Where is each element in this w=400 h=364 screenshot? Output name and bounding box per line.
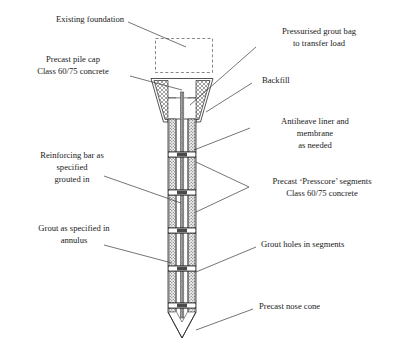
- label-grout-holes-line-0: Grout holes in segments: [261, 239, 345, 249]
- label-backfill-line-0: Backfill: [262, 75, 290, 85]
- label-presscore-line-1: Class 60/75 concrete: [286, 188, 358, 198]
- pile-shaft: [168, 92, 196, 338]
- label-precast-pile-cap-line-1: Class 60/75 concrete: [37, 66, 109, 76]
- label-grout-bag-line-0: Pressurised grout bag: [282, 26, 357, 36]
- label-existing-foundation-line-0: Existing foundation: [56, 14, 125, 24]
- label-grout-annulus-line-0: Grout as specified in: [38, 223, 110, 233]
- pile-diagram-figure: Existing foundation Precast pile cap Cla…: [0, 0, 400, 364]
- label-reinforcing-bar-line-1: specified: [56, 162, 88, 172]
- label-presscore-line-0: Precast ‘Presscore’ segments: [272, 176, 372, 186]
- label-antiheave-line-1: membrane: [297, 128, 333, 138]
- label-grout-holes: Grout holes in segments: [261, 239, 345, 249]
- label-grout-bag-line-1: to transfer load: [293, 38, 346, 48]
- label-antiheave-line-0: Antiheave liner and: [281, 116, 349, 126]
- label-precast-pile-cap-line-0: Precast pile cap: [46, 54, 100, 64]
- label-existing-foundation: Existing foundation: [56, 14, 125, 24]
- label-antiheave-line-2: as needed: [298, 140, 332, 150]
- label-reinforcing-bar-line-0: Reinforcing bar as: [40, 150, 104, 160]
- label-backfill: Backfill: [262, 75, 290, 85]
- pile-section-drawing: Existing foundation Precast pile cap Cla…: [0, 0, 400, 364]
- reinforcing-bar: [180, 92, 183, 318]
- label-grout-annulus-line-1: annulus: [61, 235, 88, 245]
- label-nose-cone-line-0: Precast nose cone: [259, 301, 320, 311]
- label-precast-nose-cone: Precast nose cone: [259, 301, 320, 311]
- label-reinforcing-bar-line-2: grouted in: [54, 174, 90, 184]
